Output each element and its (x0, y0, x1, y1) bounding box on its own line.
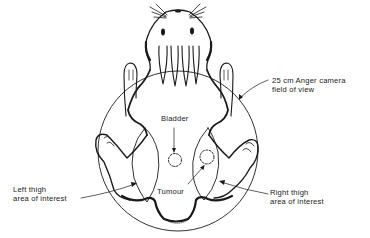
left-thigh-label: Left thigh area of interest (13, 185, 67, 203)
right-forepaw (220, 63, 233, 116)
left-thigh-line2: area of interest (13, 194, 67, 203)
whiskers-left (150, 4, 167, 18)
right-thigh-line1: Right thigh (270, 188, 324, 197)
right-eye (190, 28, 194, 35)
camera-fov-line2: field of view (272, 85, 346, 94)
bladder-label: Bladder (161, 114, 189, 123)
left-thigh-line1: Left thigh (13, 185, 67, 194)
right-hind-leg (209, 135, 258, 198)
forepaw-digits (159, 46, 199, 86)
whiskers-right (189, 4, 206, 18)
bladder-roi (169, 154, 182, 167)
lower-body (122, 196, 232, 222)
left-forepaw (124, 63, 137, 116)
body-right-side (207, 70, 228, 135)
right-thigh-line2: area of interest (270, 197, 324, 206)
left-eye (161, 29, 165, 36)
tumour-roi (200, 150, 214, 164)
left-thigh-roi (132, 128, 159, 202)
camera-fov-label: 25 cm Anger camera field of view (272, 76, 346, 94)
camera-fov-line1: 25 cm Anger camera (272, 76, 346, 85)
body-left-side (128, 70, 150, 135)
right-thigh-label: Right thigh area of interest (270, 188, 324, 206)
tumour-label: Tumour (157, 187, 184, 196)
